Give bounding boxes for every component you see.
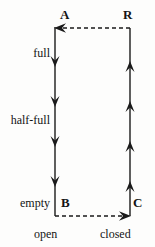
- axis-label-open: open: [34, 228, 57, 240]
- level-label-half-full: half-full: [0, 114, 50, 126]
- level-label-full: full: [5, 47, 50, 59]
- diagram-canvas: A R B C full half-full empty open closed: [0, 0, 155, 247]
- level-label-empty: empty: [0, 197, 50, 209]
- node-label-c: C: [133, 196, 142, 209]
- node-label-r: R: [123, 8, 132, 21]
- axis-label-closed: closed: [100, 228, 131, 240]
- edge-right-empty-to-full: [126, 28, 135, 216]
- node-label-b: B: [61, 196, 70, 209]
- edge-bottom-open-to-closed: [55, 211, 131, 221]
- edge-top-closed-to-open: [54, 23, 130, 33]
- edge-left-full-to-empty: [51, 27, 60, 216]
- node-label-a: A: [60, 8, 69, 21]
